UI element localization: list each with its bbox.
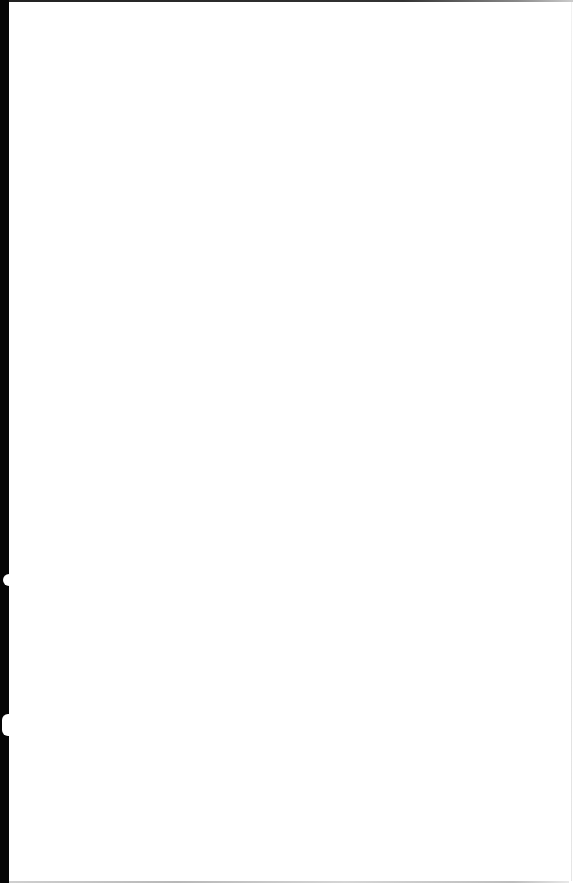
scanner-left-edge	[0, 0, 9, 883]
page-body	[9, 2, 571, 881]
edge-notch	[2, 714, 9, 736]
scanner-right-edge	[571, 2, 572, 881]
scanned-page	[0, 0, 573, 883]
